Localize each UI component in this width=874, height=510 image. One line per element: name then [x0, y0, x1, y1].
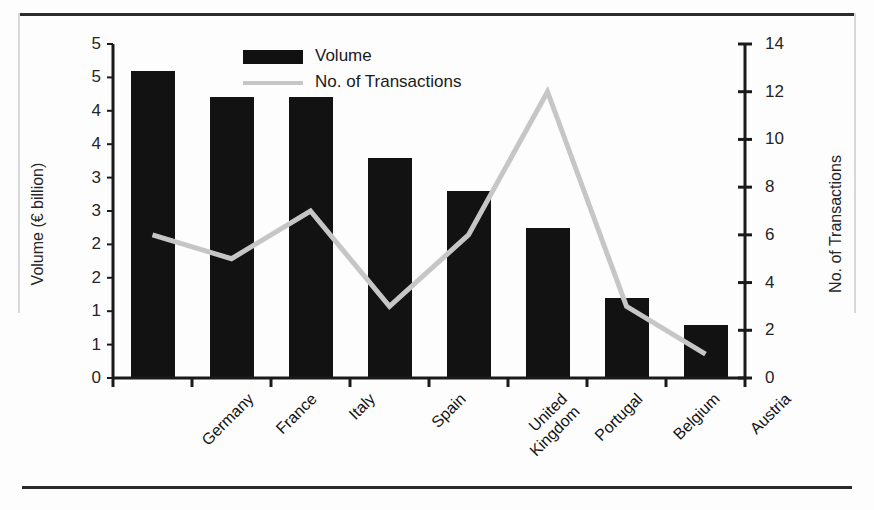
combo-chart: Volume (€ billion) No. of Transactions 5…	[0, 0, 874, 510]
category-label-portugal: Portugal	[591, 390, 646, 445]
bar-france	[210, 97, 254, 378]
left-tick-label: 3	[61, 202, 101, 219]
legend-swatch-volume	[243, 50, 303, 64]
category-label-france: France	[272, 390, 320, 438]
left-tick-label: 4	[61, 135, 101, 152]
category-label-spain: Spain	[427, 390, 469, 432]
right-tick-label: 4	[765, 274, 805, 291]
left-axis-title: Volume (€ billion)	[29, 124, 47, 324]
category-label-germany: Germany	[198, 390, 257, 449]
left-tick-label: 2	[61, 269, 101, 286]
right-tick-label: 14	[765, 35, 805, 52]
right-tick-label: 0	[765, 369, 805, 386]
bar-germany	[131, 71, 175, 378]
legend-swatch-transactions	[243, 81, 303, 85]
right-tick-label: 8	[765, 178, 805, 195]
right-tick-label: 10	[765, 130, 805, 147]
left-tick-label: 2	[61, 235, 101, 252]
right-tick-label: 6	[765, 226, 805, 243]
bar-spain	[368, 158, 412, 378]
legend-label-volume: Volume	[315, 46, 372, 66]
legend-label-transactions: No. of Transactions	[315, 72, 461, 92]
left-tick-label: 4	[61, 102, 101, 119]
left-tick-label: 0	[61, 369, 101, 386]
category-label-austria: Austria	[746, 390, 794, 438]
left-tick-label: 5	[61, 35, 101, 52]
category-label-united-kingdom: UnitedKingdom	[513, 390, 583, 460]
category-label-belgium: Belgium	[669, 390, 723, 444]
left-tick-label: 5	[61, 68, 101, 85]
right-tick-label: 2	[765, 321, 805, 338]
bar-portugal	[526, 228, 570, 378]
right-axis-title: No. of Transactions	[827, 124, 845, 324]
bar-italy	[289, 97, 333, 378]
scanned-page: Volume (€ billion) No. of Transactions 5…	[0, 0, 874, 510]
left-tick-label: 1	[61, 336, 101, 353]
left-tick-label: 3	[61, 169, 101, 186]
left-tick-label: 1	[61, 302, 101, 319]
bar-belgium	[605, 298, 649, 378]
right-tick-label: 12	[765, 83, 805, 100]
bar-austria	[684, 325, 728, 378]
bar-united-kingdom	[447, 191, 491, 378]
category-label-italy: Italy	[345, 390, 378, 423]
